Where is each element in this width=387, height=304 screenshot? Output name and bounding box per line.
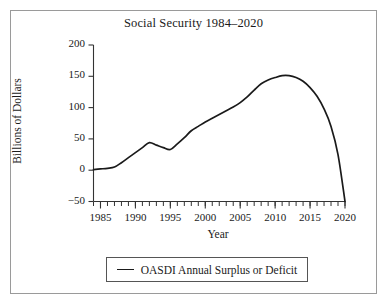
x-major-tick-marks <box>100 202 345 209</box>
x-tick-label: 2020 <box>320 211 370 223</box>
y-tick-label: 200 <box>40 37 85 49</box>
legend-line-swatch-icon <box>117 269 134 270</box>
y-tick-label: 100 <box>40 100 85 112</box>
axis-lines <box>94 45 346 202</box>
chart-legend: OASDI Annual Surplus or Deficit <box>106 257 308 282</box>
chart-figure: Social Security 1984–2020 Billions of Do… <box>0 0 387 304</box>
data-line-oasdi <box>94 75 346 201</box>
y-tick-marks <box>89 45 94 202</box>
y-tick-label: 150 <box>40 68 85 80</box>
y-tick-label: 0 <box>40 162 85 174</box>
y-tick-label: −50 <box>40 194 85 206</box>
legend-item-label: OASDI Annual Surplus or Deficit <box>141 264 298 276</box>
x-minor-tick-marks <box>94 202 346 207</box>
y-tick-label: 50 <box>40 131 85 143</box>
